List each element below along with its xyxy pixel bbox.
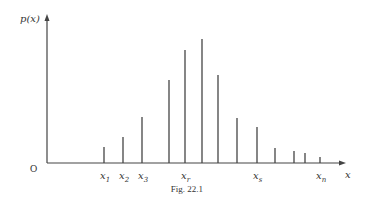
probability-figure: x1x2x3xrxsxn p(x) x O Fig. 22.1 — [0, 0, 367, 211]
x-tick-label: xn — [316, 170, 327, 184]
origin-label: O — [30, 163, 37, 174]
x-axis-arrow-icon — [339, 161, 346, 166]
x-tick-label: x3 — [138, 170, 149, 184]
x-tick-label: x2 — [119, 170, 130, 184]
axes — [45, 14, 347, 166]
y-axis-label: p(x) — [20, 13, 40, 24]
y-axis-arrow-icon — [45, 14, 50, 21]
x-tick-label: xs — [253, 170, 263, 184]
x-tick-label: x1 — [100, 170, 110, 184]
x-axis-label: x — [345, 169, 351, 180]
probability-spikes — [104, 39, 320, 163]
figure-caption: Fig. 22.1 — [171, 184, 203, 194]
x-tick-labels: x1x2x3xrxsxn — [100, 170, 327, 184]
x-tick-label: xr — [181, 170, 191, 184]
